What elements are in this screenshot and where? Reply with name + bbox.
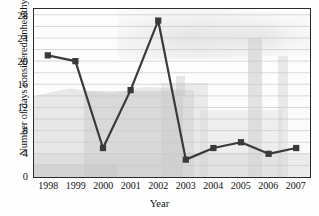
- plot-area: [33, 8, 311, 178]
- chart-container: Number of days considered unhealthy Year…: [0, 0, 319, 216]
- data-point-marker: [238, 139, 244, 145]
- data-series: [34, 9, 310, 177]
- x-axis-tick-label: 2007: [279, 180, 313, 191]
- x-axis-title: Year: [0, 198, 319, 209]
- data-point-marker: [127, 87, 133, 93]
- y-axis-tick-label: 4: [2, 148, 28, 159]
- data-point-marker: [72, 58, 78, 64]
- data-point-marker: [265, 151, 271, 157]
- y-axis-tick-label: 12: [2, 102, 28, 113]
- y-axis-tick-label: 8: [2, 125, 28, 136]
- y-axis-tick-label: 20: [2, 56, 28, 67]
- data-point-marker: [100, 145, 106, 151]
- data-point-marker: [45, 52, 51, 58]
- data-point-marker: [210, 145, 216, 151]
- data-point-marker: [183, 156, 189, 162]
- y-axis-tick-label: 16: [2, 79, 28, 90]
- y-axis-tick-label: 24: [2, 33, 28, 44]
- y-axis-tick-label: 0: [2, 171, 28, 182]
- y-axis-tick-label: 28: [2, 10, 28, 21]
- data-point-marker: [293, 145, 299, 151]
- data-point-marker: [155, 17, 161, 23]
